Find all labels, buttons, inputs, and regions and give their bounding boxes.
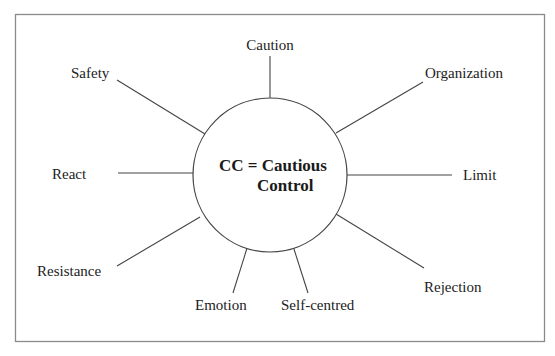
node-label-safety: Safety — [71, 65, 110, 81]
center-label-line2: Control — [257, 176, 314, 195]
node-label-rejection: Rejection — [424, 279, 482, 295]
cautious-control-diagram: CC = Cautious Control Caution Organizati… — [0, 0, 555, 356]
center-label-line1: CC = Cautious — [219, 156, 327, 175]
node-label-caution: Caution — [246, 37, 294, 53]
spoke-safety — [117, 80, 205, 134]
spoke-rejection — [336, 214, 424, 268]
spoke-emotion — [233, 245, 248, 293]
node-label-react: React — [52, 166, 87, 182]
spoke-resistance — [117, 217, 200, 266]
node-label-self-centred: Self-centred — [281, 297, 355, 313]
spoke-organization — [336, 82, 423, 133]
center-circle — [193, 98, 347, 252]
node-label-limit: Limit — [463, 167, 497, 183]
node-label-resistance: Resistance — [37, 263, 101, 279]
node-label-emotion: Emotion — [195, 297, 247, 313]
spoke-self-centred — [293, 246, 308, 293]
node-label-organization: Organization — [425, 65, 504, 81]
